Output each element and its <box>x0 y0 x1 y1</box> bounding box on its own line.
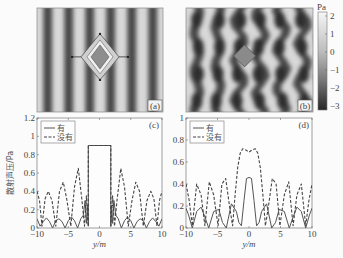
x-tick-label: 5 <box>129 229 134 239</box>
y-tick-label: 1 <box>180 113 185 123</box>
y-tick-label: 0.2 <box>24 205 35 215</box>
panel-label: (b) <box>300 101 311 111</box>
x-tick-label: 5 <box>278 229 283 239</box>
field-map-panel-a: (a) <box>22 3 178 117</box>
y-tick-label: 0.4 <box>24 186 36 196</box>
x-tick-label: 10 <box>158 229 168 239</box>
x-tick-label: 10 <box>308 229 318 239</box>
y-tick-label: 0.8 <box>24 150 36 160</box>
y-tick-label: 0.8 <box>173 135 185 145</box>
y-tick-label: 0.4 <box>173 179 185 189</box>
wave-stripe <box>22 3 31 117</box>
panel-label: (a) <box>150 101 160 111</box>
y-tick-label: 0.6 <box>24 168 36 178</box>
colorbar-tick: 1 <box>330 29 335 39</box>
colorbar-unit: Pa <box>317 2 326 12</box>
legend-label-with: 有 <box>206 123 214 133</box>
legend-label-with: 有 <box>57 123 65 133</box>
colorbar-tick: −2 <box>330 83 340 93</box>
x-tick-label: 0 <box>247 229 252 239</box>
panel-label: (c) <box>149 120 159 130</box>
x-tick-label: −5 <box>63 229 73 239</box>
wave-stripe <box>64 3 73 117</box>
figure: (a) (b) Pa210−1−2−3 −10−5051000.20.40.60… <box>0 0 343 258</box>
y-tick-label: 1.2 <box>24 113 35 123</box>
colorbar-gradient <box>318 12 327 110</box>
colorbar-tick: 0 <box>330 47 335 57</box>
y-tick-label: 0 <box>180 223 185 233</box>
y-tick-label: 1 <box>31 131 36 141</box>
y-tick-label: 0 <box>31 223 36 233</box>
wave-stripe <box>169 3 178 117</box>
colorbar-tick: 2 <box>330 11 335 21</box>
x-axis-label: y/m <box>92 239 106 249</box>
y-tick-label: 0.2 <box>173 201 184 211</box>
line-chart-panel-d: −10−5051000.20.40.60.81y/m有没有(d) <box>173 113 317 249</box>
panel-label: (d) <box>299 120 310 130</box>
colorbar: Pa210−1−2−3 <box>317 2 340 111</box>
colorbar-tick: −3 <box>330 101 340 111</box>
x-tick-label: 0 <box>97 229 102 239</box>
x-axis-label: y/m <box>242 239 256 249</box>
y-tick-label: 0.6 <box>173 157 185 167</box>
x-tick-label: −5 <box>213 229 223 239</box>
field-map-panel-b: (b) <box>168 3 334 117</box>
legend-label-without: 没有 <box>206 132 222 142</box>
y-axis-label: 散射声压/Pa <box>5 151 15 195</box>
colorbar-tick: −1 <box>330 65 340 75</box>
line-chart-panel-c: −10−5051000.20.40.60.811.2y/m散射声压/Pa有没有(… <box>5 113 167 249</box>
wave-stripe <box>43 3 52 117</box>
wave-stripe <box>127 3 136 117</box>
legend-label-without: 没有 <box>57 132 73 142</box>
wave-stripe <box>168 3 183 117</box>
